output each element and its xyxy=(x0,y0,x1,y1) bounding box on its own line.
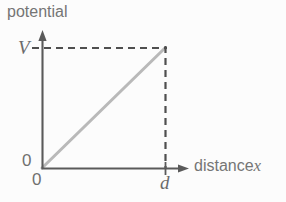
x-axis-title: distancex xyxy=(194,157,261,174)
y-axis-tick-label-v: V xyxy=(18,38,30,57)
data-line-potential xyxy=(42,48,165,168)
x-axis-title-text: distance xyxy=(194,157,254,174)
y-axis-arrowhead-icon xyxy=(38,30,46,41)
potential-distance-graph: potential distancex V d 0 0 xyxy=(0,0,286,202)
x-axis-title-variable: x xyxy=(254,156,262,175)
x-axis-arrowhead-icon xyxy=(178,164,189,172)
x-axis-origin-label: 0 xyxy=(32,171,41,188)
y-axis-title: potential xyxy=(7,4,68,20)
x-axis-tick-label-d: d xyxy=(160,173,170,192)
y-axis-origin-label: 0 xyxy=(22,152,31,169)
